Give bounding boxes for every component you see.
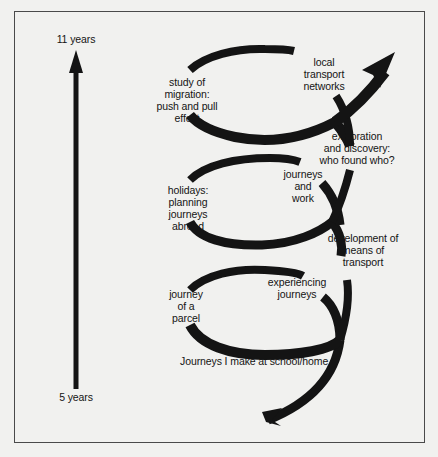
topic-exploration: exploration and discovery: who found who… (312, 130, 402, 166)
topic-migration: study of migration: push and pull effect (152, 76, 222, 124)
topic-holidays: holidays: planning journeys abroad (160, 184, 216, 232)
spiral-arrowhead-icon (362, 52, 395, 88)
topic-journeys-work: journeys and work (282, 168, 324, 204)
topic-experiencing-journeys: experiencing journeys (262, 276, 332, 300)
topic-means-of-transport: development of means of transport (318, 232, 408, 268)
age-label-bottom: 5 years (52, 391, 100, 403)
topic-school-home: Journeys I make at school/home (180, 355, 330, 367)
spiral-diagram (0, 0, 438, 457)
age-axis-arrow-icon (69, 50, 83, 389)
topic-local-transport: local transport networks (294, 56, 354, 92)
age-label-top: 11 years (52, 33, 100, 45)
topic-parcel: journey of a parcel (164, 288, 208, 324)
